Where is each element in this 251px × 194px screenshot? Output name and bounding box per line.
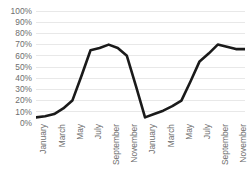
y-axis-tick-label: 10% [15,108,32,116]
x-axis-tick-label: September [221,124,230,165]
x-axis-tick-label: May [185,124,194,140]
x-axis-tick-text: January [148,124,157,154]
x-axis-tick-label: November [130,124,139,163]
x-axis-tick-text: July [203,124,212,139]
x-axis-tick-text: January [39,124,48,154]
y-axis-tick-label: 60% [15,52,32,60]
y-axis-tick-label: 70% [15,40,32,48]
chart-title [0,0,251,3]
x-axis-tick-label: July [203,124,212,139]
x-axis-tick-text: July [94,124,103,139]
x-axis-tick-label: November [239,124,248,163]
y-axis-tick-label: 100% [11,7,32,15]
x-axis-tick-text: May [185,124,194,140]
x-axis-tick-label: September [112,124,121,165]
y-axis-tick-label: 90% [15,18,32,26]
y-axis-tick-label: 30% [15,85,32,93]
y-axis-tick-label: 20% [15,96,32,104]
x-axis-tick-text: May [76,124,85,140]
x-axis-tick-label: July [94,124,103,139]
plot-svg [36,11,245,123]
y-axis-tick-label: 50% [15,63,32,71]
x-axis-tick-text: March [58,124,67,147]
x-axis-tick-label: March [167,124,176,147]
x-axis: JanuaryMarchMayJulySeptemberNovemberJanu… [36,124,245,194]
x-axis-tick-label: January [39,124,48,154]
plot-area [36,11,245,123]
y-axis: 100%90%80%70%60%50%40%30%20%10%0% [0,0,34,194]
x-axis-tick-text: March [167,124,176,147]
y-axis-tick-label: 80% [15,29,32,37]
x-axis-tick-label: March [58,124,67,147]
y-axis-tick-label: 40% [15,74,32,82]
y-axis-tick-label: 0% [20,119,32,127]
x-axis-tick-text: September [112,124,121,165]
line-chart: 100%90%80%70%60%50%40%30%20%10%0% Januar… [0,0,251,194]
x-axis-tick-text: November [239,124,248,163]
x-axis-tick-label: January [148,124,157,154]
x-axis-tick-label: May [76,124,85,140]
x-axis-tick-text: September [221,124,230,165]
x-axis-tick-text: November [130,124,139,163]
